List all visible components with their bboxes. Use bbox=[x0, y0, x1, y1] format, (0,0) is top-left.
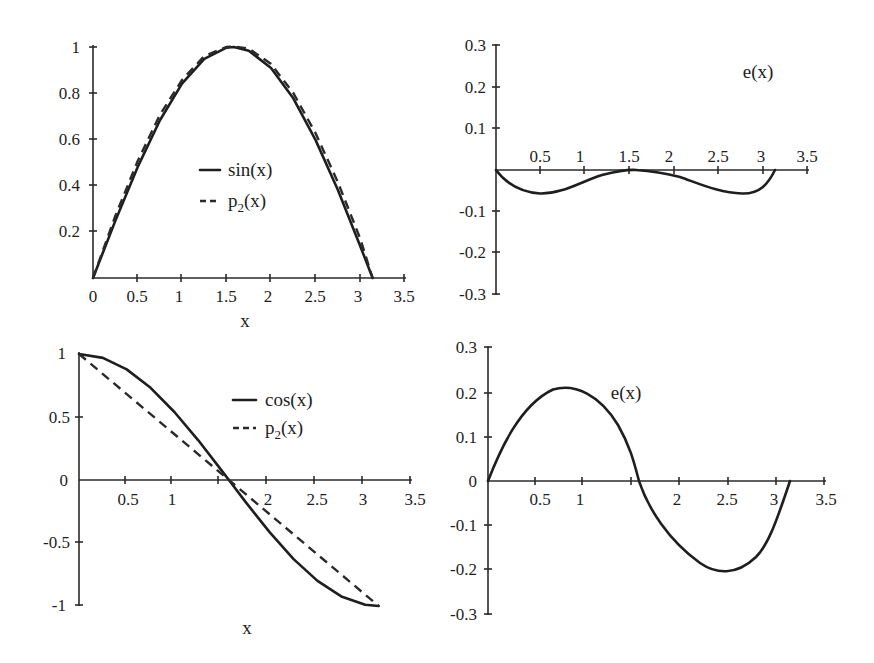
panel-error-bottom: 0.3 0.2 0.1 0 -0.1 -0.2 -0.3 0.5 1 2 2.5… bbox=[450, 338, 837, 624]
error-curve bbox=[488, 388, 790, 572]
x-tick-label: 2.5 bbox=[304, 287, 325, 306]
x-tick-label: 3 bbox=[359, 490, 368, 509]
legend: cos(x) p2(x) bbox=[233, 389, 312, 442]
y-tick-labels: 1 0.8 0.6 0.4 0.2 bbox=[59, 38, 81, 241]
x-tick-label: 3.5 bbox=[796, 147, 817, 166]
y-tick-labels: 0.3 0.2 0.1 -0.1 -0.2 -0.3 bbox=[459, 36, 486, 304]
x-tick-label: 3 bbox=[354, 287, 363, 306]
x-tick-labels: 0.5 1 2 2.5 3 3.5 bbox=[117, 490, 425, 509]
x-tick-label: 0.5 bbox=[117, 490, 138, 509]
x-tick-label: 1 bbox=[576, 147, 585, 166]
x-tick-labels: 0.5 1 2 2.5 3 3.5 bbox=[529, 490, 836, 509]
x-axis bbox=[93, 274, 406, 282]
x-tick-label: 0.5 bbox=[529, 147, 550, 166]
x-tick-label: 3 bbox=[770, 490, 779, 509]
y-tick-label: -1 bbox=[52, 596, 66, 615]
legend-label-sin: sin(x) bbox=[228, 159, 272, 181]
y-tick-label: 0.3 bbox=[456, 338, 477, 357]
figure: 1 0.8 0.6 0.4 0.2 0 0.5 1 1.5 2 2.5 3 3.… bbox=[0, 0, 874, 663]
x-tick-label: 1.5 bbox=[215, 287, 236, 306]
x-tick-label: 2.5 bbox=[716, 490, 737, 509]
x-tick-labels: 0.5 1 1.5 2 2.5 3 3.5 bbox=[529, 147, 817, 166]
x-tick-label: 2 bbox=[264, 490, 273, 509]
y-tick-label: -0.5 bbox=[43, 533, 70, 552]
panel-error-top: 0.3 0.2 0.1 -0.1 -0.2 -0.3 0.5 1 1.5 2 2… bbox=[459, 36, 818, 304]
y-tick-label: 0.5 bbox=[49, 408, 70, 427]
y-tick-label: 0.2 bbox=[465, 78, 486, 97]
y-tick-labels: 0.3 0.2 0.1 0 -0.1 -0.2 -0.3 bbox=[450, 338, 477, 624]
legend-label-p2: p2(x) bbox=[265, 417, 303, 442]
x-tick-label: 1 bbox=[168, 490, 177, 509]
y-tick-label: 0.1 bbox=[465, 119, 486, 138]
y-tick-label: 1 bbox=[72, 38, 81, 57]
y-axis bbox=[75, 352, 83, 606]
y-tick-label: -0.3 bbox=[450, 605, 477, 624]
x-tick-label: 0.5 bbox=[529, 490, 550, 509]
x-tick-label: 0.5 bbox=[126, 287, 147, 306]
x-axis bbox=[79, 476, 412, 484]
y-tick-label: 0.2 bbox=[59, 222, 80, 241]
x-tick-labels: 0 0.5 1 1.5 2 2.5 3 3.5 bbox=[89, 287, 415, 306]
y-tick-label: 0.8 bbox=[59, 84, 80, 103]
y-tick-label: -0.1 bbox=[459, 202, 486, 221]
y-tick-label: 0.4 bbox=[59, 176, 81, 195]
legend-label-cos: cos(x) bbox=[265, 389, 312, 411]
x-tick-label: 3.5 bbox=[404, 490, 425, 509]
x-axis bbox=[488, 477, 826, 485]
error-curve bbox=[496, 170, 775, 194]
error-annotation: e(x) bbox=[611, 382, 642, 404]
y-tick-label: 0.2 bbox=[456, 384, 477, 403]
y-tick-labels: 1 0.5 0 -0.5 -1 bbox=[43, 344, 70, 615]
y-tick-label: 1 bbox=[58, 344, 67, 363]
y-tick-label: 0.1 bbox=[456, 428, 477, 447]
y-tick-label: 0 bbox=[60, 471, 69, 490]
x-tick-label: 2 bbox=[264, 287, 273, 306]
legend: sin(x) p2(x) bbox=[200, 159, 272, 215]
x-tick-label: 1 bbox=[175, 287, 184, 306]
x-tick-label: 3.5 bbox=[815, 490, 836, 509]
x-tick-label: 2 bbox=[673, 490, 682, 509]
x-tick-label: 2 bbox=[665, 147, 674, 166]
x-axis-title: x bbox=[242, 617, 252, 638]
x-tick-label: 3 bbox=[757, 147, 766, 166]
panel-cos: 1 0.5 0 -0.5 -1 0.5 1 2 2.5 3 3.5 x bbox=[43, 344, 426, 638]
y-tick-label: -0.3 bbox=[459, 285, 486, 304]
legend-label-p2: p2(x) bbox=[228, 190, 266, 215]
y-tick-label: 0.3 bbox=[465, 36, 486, 55]
y-axis bbox=[89, 45, 97, 278]
x-tick-label: 2.5 bbox=[707, 147, 728, 166]
x-tick-label: 0 bbox=[89, 287, 98, 306]
x-tick-label: 1 bbox=[576, 490, 585, 509]
y-tick-label: -0.1 bbox=[450, 516, 477, 535]
y-tick-label: -0.2 bbox=[459, 243, 486, 262]
x-tick-label: 2.5 bbox=[306, 490, 327, 509]
error-annotation: e(x) bbox=[743, 61, 774, 83]
x-tick-label: 3.5 bbox=[393, 287, 414, 306]
x-axis-title: x bbox=[240, 310, 250, 331]
y-tick-label: 0.6 bbox=[59, 130, 80, 149]
panel-sin: 1 0.8 0.6 0.4 0.2 0 0.5 1 1.5 2 2.5 3 3.… bbox=[59, 38, 415, 331]
x-tick-label: 1.5 bbox=[618, 147, 639, 166]
y-tick-label: 0 bbox=[469, 472, 478, 491]
y-tick-label: -0.2 bbox=[450, 560, 477, 579]
